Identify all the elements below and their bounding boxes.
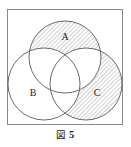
circle-label-a: A [61, 31, 69, 42]
circle-label-b: B [30, 87, 37, 98]
figure-caption-number: 5 [69, 129, 75, 140]
figure-caption-label: 図 [56, 129, 67, 140]
shaded-region-c-only [7, 9, 123, 125]
figure-container: A B C 図5 [0, 0, 131, 147]
venn-diagram-frame: A B C [7, 9, 123, 125]
circle-label-c: C [94, 87, 101, 98]
figure-caption: 図5 [0, 128, 131, 141]
venn-diagram-svg: A B C [7, 9, 123, 125]
